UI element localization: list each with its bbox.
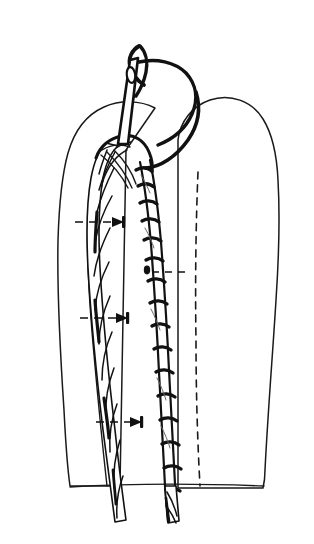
sewing-diagram-svg	[0, 0, 314, 544]
sewing-diagram-illustration: Hand-drawn sewing diagram: threaded need…	[0, 0, 314, 544]
chain-stitch-column	[136, 160, 181, 523]
right-fabric-piece	[178, 97, 279, 488]
